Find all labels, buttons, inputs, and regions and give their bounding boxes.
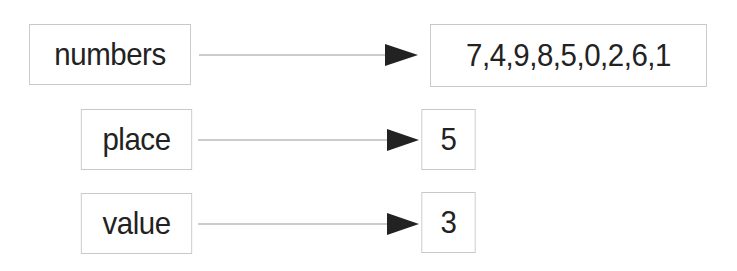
numbers-name-box: numbers <box>29 24 191 85</box>
variable-diagram: numbers 7,4,9,8,5,0,2,6,1 place 5 value … <box>0 0 737 271</box>
value-value-box: 3 <box>421 192 475 253</box>
place-name-box: place <box>81 109 192 170</box>
numbers-value-box: 7,4,9,8,5,0,2,6,1 <box>430 24 707 87</box>
value-name-box: value <box>81 193 192 254</box>
place-value-box: 5 <box>421 109 475 170</box>
arrow-value <box>198 213 419 235</box>
arrow-numbers <box>199 44 418 66</box>
arrow-place <box>198 129 419 151</box>
